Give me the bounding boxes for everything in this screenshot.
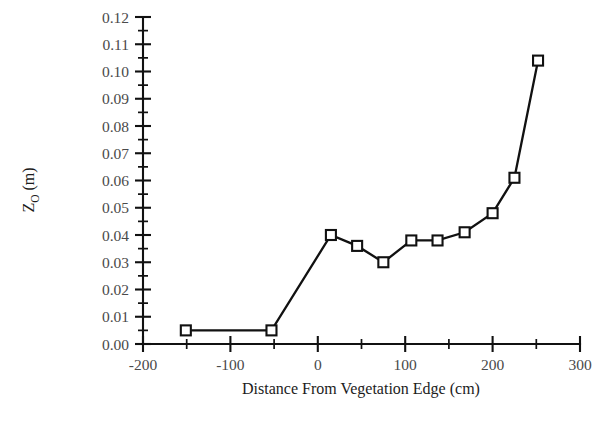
data-point-marker <box>181 325 191 335</box>
y-tick-label: 0.08 <box>102 118 129 135</box>
data-point-marker <box>266 325 276 335</box>
y-tick-label: 0.09 <box>102 90 129 107</box>
data-point-marker <box>488 208 498 218</box>
x-axis-tick-labels: -200-1000100200300 <box>129 356 592 373</box>
y-tick-label: 0.06 <box>102 172 129 189</box>
x-tick-label: 200 <box>481 356 505 373</box>
y-axis-title-unit: (m) <box>20 167 38 194</box>
y-axis-title-text: ZO (m) <box>20 167 41 212</box>
data-series-line <box>186 61 538 331</box>
y-axis-title-base: Z <box>20 203 37 213</box>
data-point-marker <box>509 173 519 183</box>
data-point-marker <box>433 235 443 245</box>
x-tick-label: 100 <box>394 356 418 373</box>
y-tick-label: 0.02 <box>102 281 129 298</box>
y-tick-label: 0.03 <box>102 254 129 271</box>
y-tick-label: 0.07 <box>102 145 129 162</box>
data-point-marker <box>406 235 416 245</box>
x-tick-label: -100 <box>216 356 245 373</box>
data-point-markers <box>181 56 543 336</box>
x-tick-label: -200 <box>129 356 158 373</box>
y-tick-label: 0.10 <box>102 63 129 80</box>
y-tick-label: 0.11 <box>102 36 129 53</box>
y-tick-label: 0.04 <box>102 227 129 244</box>
y-axis-tick-labels: 0.000.010.020.030.040.050.060.070.080.09… <box>102 9 129 353</box>
data-point-marker <box>352 241 362 251</box>
line-chart: 0.000.010.020.030.040.050.060.070.080.09… <box>0 0 614 423</box>
y-axis-title: ZO (m) <box>20 167 41 212</box>
y-tick-label: 0.12 <box>102 9 129 26</box>
y-axis-title-subscript: O <box>29 195 41 203</box>
data-point-marker <box>326 230 336 240</box>
data-point-marker <box>460 227 470 237</box>
y-tick-label: 0.01 <box>102 308 129 325</box>
data-point-marker <box>533 56 543 66</box>
data-point-marker <box>378 257 388 267</box>
y-tick-label: 0.05 <box>102 199 129 216</box>
x-axis-title: Distance From Vegetation Edge (cm) <box>242 380 480 398</box>
chart-figure: 0.000.010.020.030.040.050.060.070.080.09… <box>0 0 614 423</box>
x-tick-label: 300 <box>568 356 592 373</box>
y-tick-label: 0.00 <box>102 336 129 353</box>
x-tick-label: 0 <box>314 356 322 373</box>
